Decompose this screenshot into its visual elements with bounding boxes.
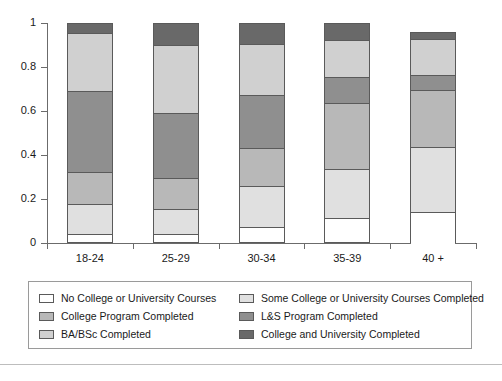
bar-35-39 (324, 23, 370, 243)
y-tick-label: 0 (0, 237, 36, 248)
bar-segment (240, 149, 284, 187)
legend-swatch (239, 330, 254, 339)
bar-segment (154, 235, 198, 242)
bar-segment (68, 34, 112, 92)
page-divider (0, 364, 502, 365)
bar-segment (68, 92, 112, 174)
legend-label: College and University Completed (261, 328, 420, 340)
legend-swatch (239, 312, 254, 321)
bar-18-24 (67, 23, 113, 243)
y-tick-label: 0.2 (0, 193, 36, 204)
bar-segment (411, 33, 455, 41)
bar-segment (325, 78, 369, 103)
legend-label: Some College or University Courses Compl… (261, 292, 484, 304)
x-tick-mark (476, 243, 477, 249)
bar-segment (154, 24, 198, 46)
x-axis-label: 25-29 (133, 252, 219, 265)
bar-segment (68, 235, 112, 242)
bar-segment (154, 210, 198, 235)
bar-segment (411, 40, 455, 76)
bar-30-34 (239, 23, 285, 243)
bar-segment (325, 104, 369, 170)
bar-segment (411, 91, 455, 149)
legend-item: College Program Completed (39, 310, 239, 322)
bar-segment (325, 170, 369, 219)
legend-swatch (39, 312, 54, 321)
legend-swatch (39, 330, 54, 339)
bar-25-29 (153, 23, 199, 243)
bar-segment (325, 41, 369, 78)
bar-segment (154, 46, 198, 115)
bar-segment (325, 24, 369, 41)
y-tick-label: 1 (0, 17, 36, 28)
legend-item: L&S Program Completed (239, 310, 484, 322)
bar-segment (240, 24, 284, 45)
legend-swatch (39, 294, 54, 303)
legend-item: Some College or University Courses Compl… (239, 292, 484, 304)
x-axis-label: 30-34 (219, 252, 305, 265)
legend-item: College and University Completed (239, 328, 484, 340)
legend-label: BA/BSc Completed (61, 328, 151, 340)
legend-label: College Program Completed (61, 310, 193, 322)
bar-segment (411, 148, 455, 212)
chart-figure: 00.20.40.60.81 18-2425-2930-3435-3940 + … (0, 0, 502, 381)
bar-segment (411, 76, 455, 90)
x-tick-mark (219, 243, 220, 249)
bar-segment (68, 205, 112, 236)
y-tick-label: 0.6 (0, 105, 36, 116)
legend-swatch (239, 294, 254, 303)
bar-segment (325, 219, 369, 242)
bar-segment (240, 228, 284, 242)
bar-segment (240, 96, 284, 149)
x-tick-mark (47, 243, 48, 249)
bar-segment (240, 187, 284, 227)
plot-area (47, 23, 476, 243)
x-tick-mark (304, 243, 305, 249)
x-tick-mark (133, 243, 134, 249)
legend-label: No College or University Courses (61, 292, 216, 304)
legend-item: BA/BSc Completed (39, 328, 239, 340)
x-axis-label: 40 + (390, 252, 476, 265)
legend-label: L&S Program Completed (261, 310, 378, 322)
x-axis-label: 18-24 (47, 252, 133, 265)
legend-item: No College or University Courses (39, 292, 239, 304)
x-axis-label: 35-39 (304, 252, 390, 265)
legend: No College or University CoursesSome Col… (28, 281, 472, 349)
bar-segment (240, 45, 284, 96)
bar-segment (154, 179, 198, 211)
bar-segment (411, 213, 455, 251)
bar-segment (68, 24, 112, 34)
x-tick-mark (390, 243, 391, 249)
y-tick-label: 0.4 (0, 149, 36, 160)
bar-40+ (410, 32, 456, 243)
bar-segment (154, 114, 198, 178)
y-tick-label: 0.8 (0, 61, 36, 72)
bar-segment (68, 173, 112, 205)
